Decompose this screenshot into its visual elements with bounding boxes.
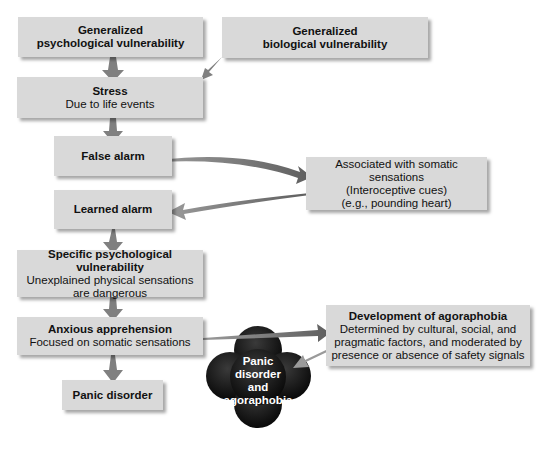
node-title: False alarm — [81, 150, 144, 163]
node-title: Panic disorder — [73, 389, 153, 402]
node-text: (e.g., pounding heart) — [342, 197, 452, 210]
node-specific-psychological-vulnerability: Specific psychological vulnerability Une… — [17, 250, 203, 297]
node-text: Determined by cultural, social, and — [340, 323, 516, 336]
cloud-text: agoraphobia — [218, 394, 298, 407]
node-title: Development of agoraphobia — [349, 310, 507, 323]
node-development-of-agoraphobia: Development of agoraphobia Determined by… — [326, 305, 530, 366]
node-text: presence or absence of safety signals — [331, 349, 524, 362]
node-false-alarm: False alarm — [54, 136, 172, 176]
node-text: pragmatic factors, and moderated by — [334, 336, 521, 349]
cloud-text: Panic — [218, 355, 298, 368]
node-title: psychological vulnerability — [37, 37, 185, 50]
node-anxious-apprehension: Anxious apprehension Focused on somatic … — [17, 317, 203, 355]
node-title: Anxious apprehension — [48, 323, 172, 336]
node-subtitle: Due to life events — [66, 98, 155, 111]
node-generalized-psychological-vulnerability: Generalized psychological vulnerability — [18, 17, 203, 57]
node-panic-disorder: Panic disorder — [62, 380, 163, 410]
node-associated-somatic-sensations: Associated with somatic sensations (Inte… — [306, 157, 487, 210]
node-title: Specific psychological vulnerability — [21, 248, 199, 274]
diagonal-arrow-icon — [201, 57, 222, 80]
node-text: are dangerous — [73, 287, 147, 300]
node-text: Unexplained physical sensations — [27, 274, 194, 287]
node-learned-alarm: Learned alarm — [54, 190, 172, 229]
curved-arrow-icon — [168, 193, 310, 220]
curved-arrow-icon — [160, 157, 312, 184]
cloud-text: and — [218, 381, 298, 394]
cloud-text: disorder — [218, 368, 298, 381]
node-subtitle: Focused on somatic sensations — [29, 336, 190, 349]
node-title: Stress — [92, 85, 127, 98]
node-text: Associated with somatic sensations — [310, 158, 483, 184]
node-stress: Stress Due to life events — [17, 77, 203, 118]
node-title: biological vulnerability — [263, 38, 388, 51]
node-title: Learned alarm — [74, 203, 153, 216]
node-title: Generalized — [292, 25, 357, 38]
node-text: (Interoceptive cues) — [346, 184, 447, 197]
node-title: Generalized — [78, 24, 143, 37]
cloud-label: Panic disorder and agoraphobia — [218, 355, 298, 407]
node-generalized-biological-vulnerability: Generalized biological vulnerability — [222, 17, 428, 58]
